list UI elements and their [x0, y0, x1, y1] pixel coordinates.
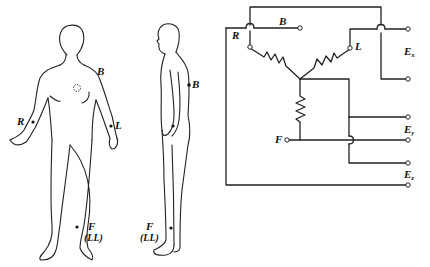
lead-circuit: [226, 7, 408, 185]
terminal-r: [248, 45, 252, 49]
label-foot: F: [87, 220, 96, 232]
label-right-arm: R: [16, 115, 24, 127]
electrode-left-arm-dot: [109, 124, 112, 127]
label-side-foot: F: [145, 220, 154, 232]
terminal-ex-top: [406, 27, 410, 31]
terminal-ez-top: [406, 161, 410, 165]
label-foot-ll: (LL): [84, 232, 103, 244]
terminal-b: [298, 26, 302, 30]
electrode-side-foot-dot: [169, 226, 172, 229]
output-label-ey: Ey: [403, 123, 415, 137]
terminal-ez-bottom: [406, 183, 410, 187]
label-back-front: B: [96, 65, 104, 77]
label-back-side: B: [191, 78, 199, 90]
terminal-ey-bottom: [406, 138, 410, 142]
terminal-ex-bottom: [406, 77, 410, 81]
output-label-ex: Ex: [403, 45, 415, 59]
side-body-figure: [154, 24, 190, 255]
electrode-back-dot: [187, 83, 191, 87]
circuit-label-f: F: [274, 133, 283, 145]
terminal-ey-top: [406, 115, 410, 119]
electrode-side-arm-dot: [171, 124, 174, 127]
output-label-ez: Ez: [403, 168, 414, 182]
terminal-l: [348, 46, 352, 50]
label-side-foot-ll: (LL): [140, 232, 159, 244]
circuit-label-b: B: [278, 15, 286, 27]
electrode-right-arm-dot: [31, 120, 34, 123]
circuit-label-l: L: [354, 40, 362, 52]
front-body-figure: [10, 25, 118, 260]
electrode-foot-dot: [75, 225, 78, 228]
terminal-f: [285, 138, 289, 142]
electrode-diagram: R L B F (LL) B F (LL): [0, 0, 430, 267]
label-left-arm: L: [114, 119, 122, 131]
heart-marker-icon: [74, 85, 81, 92]
circuit-label-r: R: [231, 29, 239, 41]
